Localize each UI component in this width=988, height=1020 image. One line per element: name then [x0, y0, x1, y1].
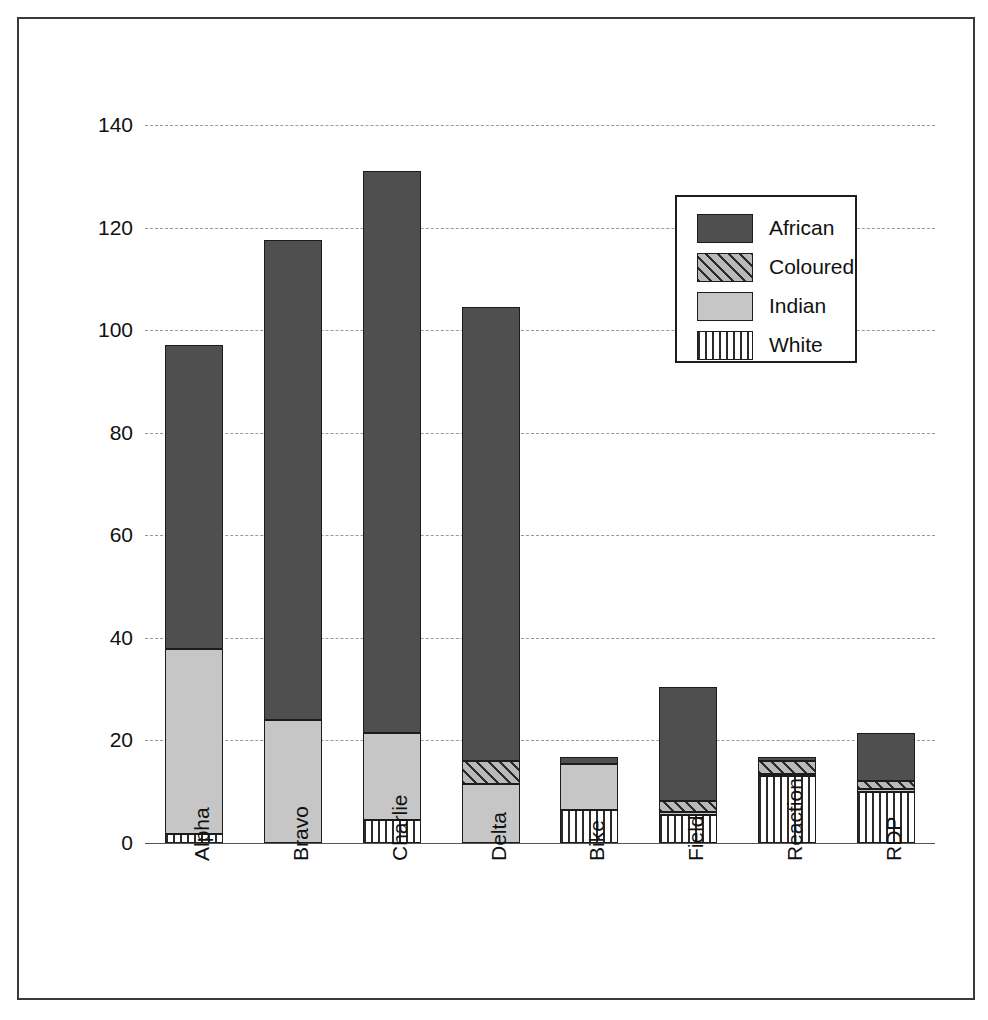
y-tick-label-20: 20 — [110, 728, 133, 752]
x-tick-label: Bravo — [289, 806, 313, 861]
chart-legend: AfricanColouredIndianWhite — [675, 195, 857, 363]
bar-segment-rdp-indian — [857, 789, 915, 792]
x-tick-label: Bike — [585, 820, 609, 861]
y-tick-label-0: 0 — [121, 831, 133, 855]
bar-segment-bike-african — [560, 757, 618, 763]
y-axis-tick-labels: 020406080100120140 — [75, 125, 133, 843]
x-tick-label: Alpha — [190, 807, 214, 861]
legend-swatch-white — [697, 331, 753, 360]
gridline-140 — [145, 125, 935, 126]
y-tick-label-80: 80 — [110, 421, 133, 445]
legend-item-african[interactable]: African — [697, 210, 855, 246]
bar-segment-delta-african — [462, 307, 520, 761]
legend-item-indian[interactable]: Indian — [697, 288, 855, 324]
legend-label: Coloured — [769, 255, 854, 279]
chart-figure: 020406080100120140 AlphaBravoCharlieDelt… — [0, 0, 988, 1020]
bar-segment-reaction-indian — [758, 774, 816, 777]
bar-segment-delta-coloured — [462, 761, 520, 784]
y-tick-label-140: 140 — [98, 113, 133, 137]
bar-segment-alpha-african — [165, 345, 223, 650]
x-axis-line — [145, 843, 935, 844]
x-tick-label: Delta — [487, 812, 511, 861]
bar-segment-rdp-coloured — [857, 781, 915, 789]
y-tick-label-40: 40 — [110, 626, 133, 650]
legend-item-coloured[interactable]: Coloured — [697, 249, 855, 285]
x-tick-label: Charlie — [388, 794, 412, 861]
x-tick-label: Reaction — [783, 778, 807, 861]
bar-segment-field-coloured — [659, 801, 717, 811]
legend-swatch-indian — [697, 292, 753, 321]
bar-segment-rdp-african — [857, 733, 915, 781]
bar-segment-reaction-coloured — [758, 761, 816, 774]
legend-label: Indian — [769, 294, 826, 318]
y-tick-label-100: 100 — [98, 318, 133, 342]
legend-item-white[interactable]: White — [697, 327, 855, 363]
x-tick-label: RDP — [882, 817, 906, 861]
bar-bravo — [264, 240, 322, 843]
x-tick-label: Field — [684, 815, 708, 861]
bar-segment-reaction-african — [758, 757, 816, 761]
legend-label: African — [769, 216, 834, 240]
bar-delta — [462, 307, 520, 843]
y-tick-label-60: 60 — [110, 523, 133, 547]
bar-charlie — [363, 171, 421, 843]
bar-segment-bike-indian — [560, 764, 618, 810]
bar-segment-charlie-african — [363, 171, 421, 733]
bar-segment-bravo-african — [264, 240, 322, 720]
legend-label: White — [769, 333, 823, 357]
figure-border: 020406080100120140 AlphaBravoCharlieDelt… — [17, 17, 975, 1000]
y-tick-label-120: 120 — [98, 216, 133, 240]
bar-segment-field-african — [659, 687, 717, 802]
legend-swatch-coloured — [697, 253, 753, 282]
bar-segment-field-indian — [659, 812, 717, 815]
bar-alpha — [165, 345, 223, 843]
legend-swatch-african — [697, 214, 753, 243]
